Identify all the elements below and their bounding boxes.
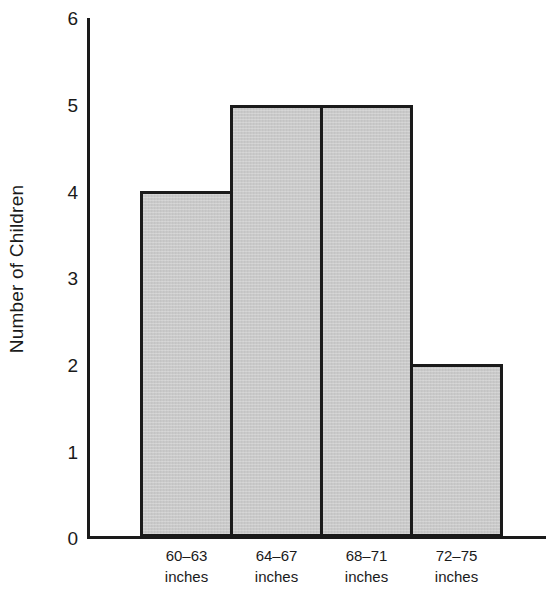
x-tick-label-2-unit: inches <box>320 566 413 587</box>
y-tick-label-1: 1 <box>34 443 78 462</box>
bar-2 <box>320 105 413 538</box>
y-axis-tick-labels: 6 5 4 3 2 1 0 <box>34 0 78 590</box>
y-tick-label-5: 5 <box>34 96 78 115</box>
x-tick-label-3-unit: inches <box>410 566 503 587</box>
y-tick-label-3: 3 <box>34 269 78 288</box>
y-tick-label-2: 2 <box>34 356 78 375</box>
y-tick-label-0: 0 <box>34 529 78 548</box>
histogram-chart: Number of Children 6 5 4 3 2 1 0 60–63 i… <box>0 0 546 590</box>
bar-0 <box>140 191 233 537</box>
x-tick-label-0: 60–63 inches <box>140 545 233 587</box>
x-tick-label-3: 72–75 inches <box>410 545 503 587</box>
plot-area <box>90 18 546 537</box>
y-axis-title: Number of Children <box>0 0 34 537</box>
x-tick-label-1-range: 64–67 <box>230 545 323 566</box>
x-tick-label-1: 64–67 inches <box>230 545 323 587</box>
x-tick-label-1-unit: inches <box>230 566 323 587</box>
bar-1 <box>230 105 323 538</box>
x-tick-label-0-unit: inches <box>140 566 233 587</box>
x-axis-tick-labels: 60–63 inches 64–67 inches 68–71 inches 7… <box>90 545 546 590</box>
x-tick-label-3-range: 72–75 <box>410 545 503 566</box>
x-tick-label-2-range: 68–71 <box>320 545 413 566</box>
y-tick-label-4: 4 <box>34 183 78 202</box>
y-tick-label-6: 6 <box>34 9 78 28</box>
bar-3 <box>410 364 503 537</box>
x-tick-label-2: 68–71 inches <box>320 545 413 587</box>
y-axis-title-text: Number of Children <box>6 184 28 352</box>
x-tick-label-0-range: 60–63 <box>140 545 233 566</box>
